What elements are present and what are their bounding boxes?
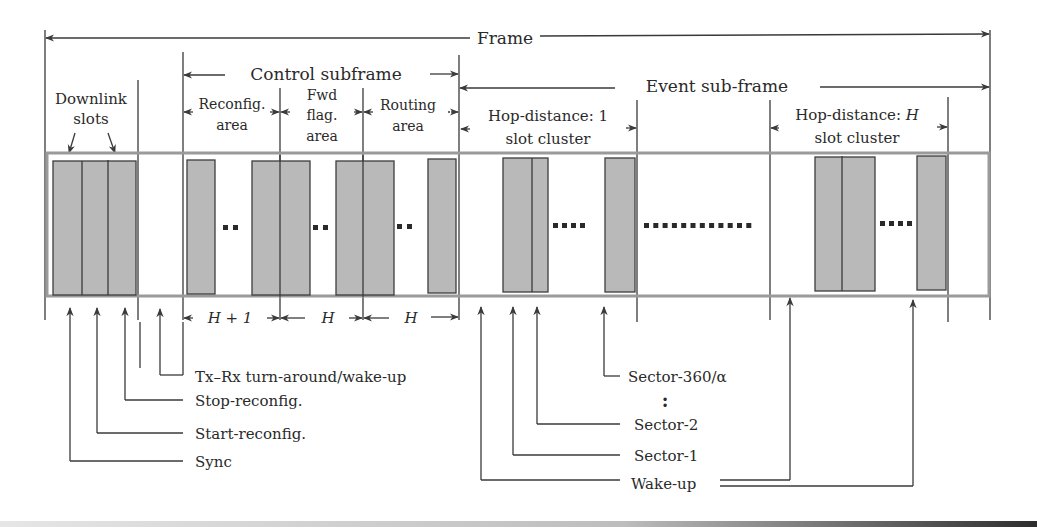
routing-area-label: Routing area	[364, 97, 458, 134]
callout-sector-last: Sector-360/α	[604, 307, 727, 386]
svg-text:Start-reconfig.: Start-reconfig.	[195, 425, 306, 443]
svg-text:slots: slots	[73, 110, 108, 128]
svg-text:flag.: flag.	[306, 107, 337, 123]
event-subframe-label: Event sub-frame	[646, 76, 788, 96]
hop-h-ellipsis	[880, 221, 912, 226]
page-bottom-rule	[0, 521, 1037, 527]
svg-text:Sector-360/α: Sector-360/α	[628, 368, 727, 386]
svg-text:H: H	[403, 309, 418, 327]
hop-1-ellipsis	[553, 223, 585, 228]
svg-text:slot cluster: slot cluster	[506, 130, 592, 148]
event-subframe-span: Event sub-frame	[460, 76, 989, 96]
frame-label: Frame	[477, 28, 533, 48]
duration-reconfig: H + 1	[184, 309, 279, 327]
tdma-frame-diagram: Frame Control subframe Event sub-frame D…	[0, 0, 1037, 529]
callout-sync: Sync	[70, 308, 232, 471]
svg-text:H: H	[320, 309, 335, 327]
svg-text:Stop-reconfig.: Stop-reconfig.	[195, 392, 303, 410]
svg-text:Sync: Sync	[195, 453, 232, 471]
svg-text:Routing: Routing	[380, 97, 436, 113]
svg-text:Hop-distance: H: Hop-distance: H	[795, 106, 920, 124]
duration-fwd-flag: H	[281, 309, 362, 327]
reconfig-slots	[187, 160, 310, 295]
between-clusters-ellipsis	[644, 223, 751, 228]
svg-text:Hop-distance: 1: Hop-distance: 1	[488, 107, 608, 125]
callout-tx-rx-turnaround: Tx–Rx turn-around/wake-up	[140, 309, 406, 386]
downlink-slots	[53, 160, 136, 295]
callout-sector-1: Sector-1	[513, 307, 698, 465]
svg-text:Downlink: Downlink	[55, 90, 128, 108]
routing-slots	[336, 159, 456, 295]
svg-text:area: area	[392, 118, 424, 134]
svg-text:H + 1: H + 1	[207, 309, 253, 327]
svg-text:Reconfig.: Reconfig.	[199, 96, 266, 112]
svg-text:Fwd: Fwd	[307, 87, 338, 103]
svg-text:slot cluster: slot cluster	[815, 129, 901, 147]
sector-ellipsis: :	[662, 390, 669, 411]
downlink-slots-label: Downlink slots	[55, 90, 128, 153]
hop-1-slots	[503, 158, 635, 292]
duration-routing: H	[364, 309, 458, 327]
control-subframe-label: Control subframe	[250, 64, 402, 84]
svg-text:Tx–Rx turn-around/wake-up: Tx–Rx turn-around/wake-up	[195, 368, 406, 386]
svg-text:Sector-1: Sector-1	[634, 447, 698, 465]
svg-text:area: area	[216, 117, 248, 133]
svg-text:Wake-up: Wake-up	[631, 475, 696, 493]
svg-text:Sector-2: Sector-2	[634, 416, 698, 434]
svg-text:area: area	[306, 128, 338, 144]
